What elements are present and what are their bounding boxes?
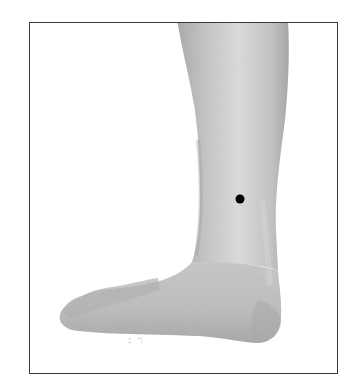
acupoint-marker bbox=[236, 195, 245, 204]
leg-illustration bbox=[0, 0, 360, 390]
leg-shape bbox=[177, 20, 289, 270]
faint-annotation: ℷ ℸ bbox=[128, 337, 144, 345]
